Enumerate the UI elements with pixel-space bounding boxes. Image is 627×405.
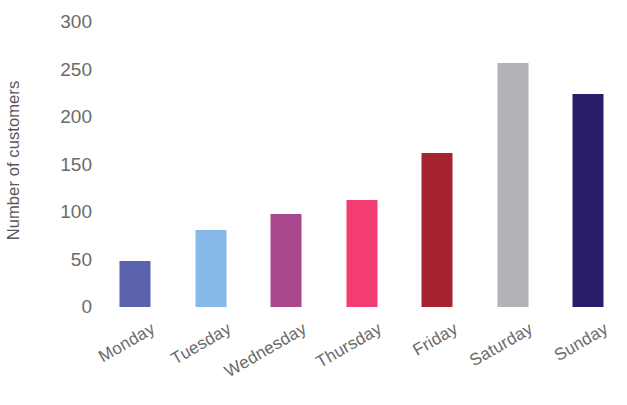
x-axis-tick-saturday: Saturday [466,319,536,371]
bar-chart: Number of customers 050100150200250300 M… [0,0,627,405]
bar-thursday [346,200,377,307]
x-axis-tick-labels: MondayTuesdayWednesdayThursdayFridaySatu… [98,313,627,405]
bar-tuesday [195,230,226,307]
x-axis-tick-monday: Monday [96,319,159,367]
x-axis-tick-slot: Saturday [480,313,546,405]
bar-saturday [497,63,528,307]
x-axis-tick-slot: Friday [404,313,470,405]
plot-area [98,0,627,320]
y-axis-tick-250: 250 [60,59,92,81]
bar-monday [120,261,151,307]
x-axis-tick-sunday: Sunday [551,319,612,366]
y-axis-tick-300: 300 [60,11,92,33]
y-axis-tick-100: 100 [60,201,92,223]
y-axis-tick-0: 0 [81,296,92,318]
x-axis-tick-friday: Friday [409,319,461,361]
y-axis-title: Number of customers [0,0,28,320]
bar-sunday [573,94,604,307]
x-axis-tick-slot: Monday [102,313,168,405]
y-axis-title-label: Number of customers [5,80,24,240]
x-axis-tick-slot: Sunday [555,313,621,405]
x-axis-tick-thursday: Thursday [313,319,386,373]
y-axis-tick-labels: 050100150200250300 [26,0,98,330]
y-axis-tick-50: 50 [71,249,92,271]
y-axis-tick-150: 150 [60,154,92,176]
y-axis-tick-200: 200 [60,106,92,128]
x-axis-tick-slot: Wednesday [253,313,319,405]
x-axis-tick-slot: Thursday [329,313,395,405]
bar-friday [422,153,453,307]
bar-wednesday [271,214,302,307]
